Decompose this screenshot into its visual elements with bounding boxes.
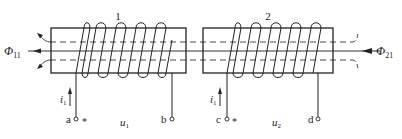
flux-curve-right-upper [352, 31, 358, 42]
terminal-c [225, 117, 229, 121]
terminal-c-label: c [216, 113, 221, 125]
voltage-u1-label: u1 [120, 116, 130, 130]
coil-2-label: 2 [265, 10, 271, 22]
terminals [74, 117, 320, 121]
terminal-a [74, 117, 78, 121]
flux-phi11-label: Φ11 [4, 44, 21, 60]
flux-curve-left-upper [40, 36, 51, 42]
terminal-b-label: b [161, 113, 167, 125]
dot-mark-a: * [82, 116, 87, 127]
current-i1-label-coil2: i1 [210, 93, 217, 107]
dot-mark-c: * [232, 116, 237, 127]
terminal-a-label: a [66, 113, 71, 125]
terminal-b [170, 117, 174, 121]
coupled-coils-diagram: 1 2 Φ11 Φ21 i1 i1 a * b c * d u1 u2 [0, 0, 402, 139]
terminal-d-label: d [308, 113, 314, 125]
voltage-u2-label: u2 [272, 116, 282, 130]
flux-curve-left-lower [40, 60, 51, 66]
arrow-left-icon [33, 49, 41, 54]
coil-2-winding [227, 23, 321, 117]
terminal-d [316, 117, 320, 121]
flux-curve-right-lower [352, 60, 358, 71]
arrow-up-icon [218, 87, 222, 94]
coil-1-winding [76, 23, 172, 117]
coil-1-label: 1 [115, 10, 121, 22]
current-arrows [68, 87, 222, 106]
current-i1-label-coil1: i1 [60, 93, 67, 107]
flux-phi21-label: Φ21 [376, 44, 393, 60]
arrow-up-icon [68, 87, 72, 94]
